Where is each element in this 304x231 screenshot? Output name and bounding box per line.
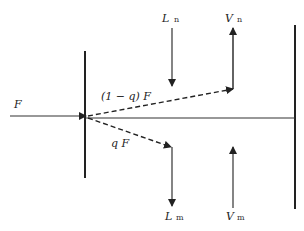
ln-label-subscript: n [174,15,179,24]
vm-label-subscript: m [237,213,245,222]
upper-split-label: (1 − q) F [101,90,151,103]
lm-label-symbol: L [164,210,172,223]
lower-split-label: q F [111,137,130,150]
lower-split-arrow [88,118,171,147]
vm-label-symbol: V [226,210,235,223]
lm-label-subscript: m [176,213,184,222]
feed-label: F [13,98,22,111]
vn-label-subscript: n [237,15,242,24]
ln-label-symbol: L [161,12,169,25]
vn-label-symbol: V [225,12,234,25]
feed-stage-diagram: F (1 − q) F q F L n V n L m V m [0,0,304,231]
